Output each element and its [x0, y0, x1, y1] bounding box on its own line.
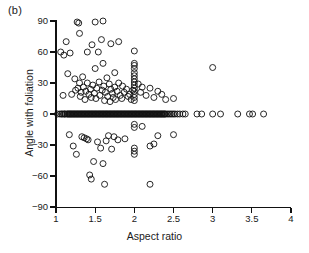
data-point: [80, 74, 86, 80]
data-points-layer: [56, 21, 291, 207]
x-axis-title: Aspect ratio: [0, 230, 309, 242]
data-point: [155, 133, 161, 139]
data-point: [100, 18, 106, 24]
plot-area: [56, 21, 291, 207]
data-point: [112, 70, 118, 76]
x-tick-label: 2.5: [162, 214, 186, 224]
y-tick-mark: [50, 175, 55, 176]
data-point: [102, 181, 108, 187]
data-point: [102, 98, 108, 104]
data-point: [70, 143, 76, 149]
data-point: [105, 133, 111, 139]
data-point: [120, 83, 126, 89]
data-point: [98, 37, 104, 43]
data-point: [108, 41, 114, 47]
data-point: [143, 92, 149, 98]
data-point: [159, 91, 165, 97]
data-point: [151, 94, 157, 100]
y-tick-label: −90: [32, 202, 48, 212]
data-point: [60, 92, 66, 98]
data-point: [76, 20, 82, 26]
y-tick-mark: [50, 51, 55, 52]
data-point: [95, 139, 101, 145]
data-point: [163, 97, 169, 103]
data-point: [73, 151, 79, 157]
x-tick-label: 2: [122, 214, 146, 224]
data-point: [95, 49, 101, 55]
y-tick-label: 30: [37, 78, 48, 88]
data-point: [63, 39, 69, 45]
data-point: [65, 71, 71, 77]
data-point: [155, 88, 161, 94]
data-point: [218, 111, 224, 117]
y-tick-mark: [50, 144, 55, 145]
x-tick-label: 3: [201, 214, 225, 224]
data-point: [98, 145, 104, 151]
x-tick-label: 1.5: [83, 214, 107, 224]
data-point: [116, 80, 122, 86]
scatter-plot-figure: (b) 9060300−30−60−90 11.522.533.54 Aspec…: [0, 0, 309, 253]
y-tick-mark: [50, 82, 55, 83]
x-tick-label: 4: [279, 214, 303, 224]
data-point: [100, 161, 106, 167]
y-tick-mark: [50, 20, 55, 21]
data-point: [122, 136, 128, 142]
data-point: [147, 85, 153, 91]
data-point: [100, 60, 106, 66]
data-point: [147, 181, 153, 187]
data-point: [116, 39, 122, 45]
y-axis-title: Angle with foliation: [23, 28, 35, 198]
data-point: [84, 49, 90, 55]
data-point: [66, 132, 72, 138]
data-point: [67, 50, 73, 56]
data-point: [235, 111, 241, 117]
data-point: [89, 42, 95, 48]
data-point: [210, 111, 216, 117]
data-point: [171, 132, 177, 138]
data-point: [91, 159, 97, 165]
data-point: [171, 96, 177, 102]
data-point: [261, 111, 267, 117]
data-point: [210, 65, 216, 71]
data-point: [82, 97, 88, 103]
y-tick-mark: [50, 206, 55, 207]
y-tick-label: 0: [43, 109, 48, 119]
data-point: [104, 75, 110, 81]
data-point: [111, 134, 117, 140]
data-point: [139, 123, 145, 129]
data-point: [92, 66, 98, 72]
data-point: [131, 48, 137, 54]
panel-label: (b): [8, 4, 22, 16]
y-tick-label: 60: [37, 47, 48, 57]
data-point: [77, 30, 83, 36]
data-point: [92, 19, 98, 25]
x-tick-label: 3.5: [240, 214, 264, 224]
data-point: [115, 137, 121, 143]
y-tick-label: 90: [37, 16, 48, 26]
data-point: [109, 146, 115, 152]
x-tick-label: 1: [44, 214, 68, 224]
